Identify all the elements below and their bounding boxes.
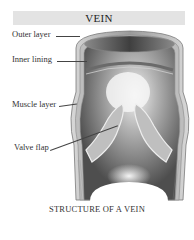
label-outer-layer: Outer layer — [12, 30, 50, 39]
leader-line-inner-lining — [57, 61, 87, 62]
vein-top-opening — [85, 36, 175, 52]
label-muscle-layer: Muscle layer — [12, 100, 56, 109]
figure-caption: STRUCTURE OF A VEIN — [0, 204, 194, 214]
leader-line-outer-layer — [56, 36, 80, 37]
label-inner-lining: Inner lining — [12, 55, 52, 64]
label-valve-flap: Valve flap — [14, 143, 49, 152]
